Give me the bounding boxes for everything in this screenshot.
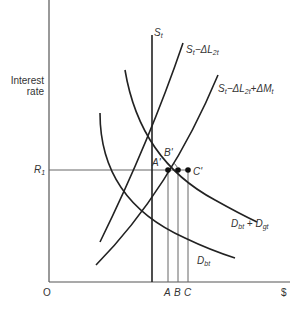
point-b-prime-label: B' (164, 147, 174, 158)
demand-bank-label: Dbt (197, 255, 211, 267)
origin-label: O (43, 287, 51, 298)
supply-minus-loans-plus-money-label: St−ΔL2t+ΔMt (218, 83, 274, 95)
point-a-prime (165, 167, 171, 173)
point-c-prime (185, 167, 191, 173)
tick-b-label: B (174, 287, 181, 298)
supply-minus-loans-label: St−ΔL2t (186, 44, 220, 56)
rate-r1-label: R1 (34, 164, 45, 176)
supply-st-label: St (154, 27, 164, 39)
y-axis-label-line2: rate (27, 86, 45, 97)
point-a-prime-label: A' (151, 157, 162, 168)
tick-a-label: A (163, 287, 171, 298)
point-b-prime (175, 167, 181, 173)
demand-bank-plus-gov-label: Dbt + Dgt (231, 218, 270, 231)
y-axis-label-line1: Interest (11, 75, 45, 86)
x-axis-label: $ (281, 287, 287, 298)
b-prime-pointer (174, 163, 178, 168)
interest-rate-diagram: Interest rate R1 O $ A B C A' B' C' St S… (0, 0, 301, 310)
tick-c-label: C (184, 287, 192, 298)
point-c-prime-label: C' (193, 166, 203, 177)
